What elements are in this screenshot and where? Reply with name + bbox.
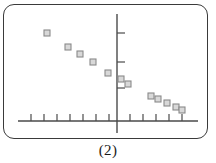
data-point-marker xyxy=(77,51,83,57)
data-point-marker xyxy=(65,44,71,50)
data-point-marker xyxy=(179,107,185,113)
data-point-marker xyxy=(148,93,154,99)
figure-caption: (2) xyxy=(0,140,216,160)
data-point-marker xyxy=(105,70,111,76)
data-point-marker xyxy=(173,104,179,110)
data-point-marker xyxy=(164,100,170,106)
data-point-marker xyxy=(90,59,96,65)
axis-ticks-group xyxy=(31,33,182,121)
data-point-marker xyxy=(125,81,131,87)
data-point-marker xyxy=(44,30,50,36)
scatter-plot-figure: (2) xyxy=(0,0,216,163)
data-point-marker xyxy=(118,76,124,82)
plot-canvas xyxy=(0,0,216,145)
data-points-group xyxy=(44,30,185,113)
data-point-marker xyxy=(155,96,161,102)
